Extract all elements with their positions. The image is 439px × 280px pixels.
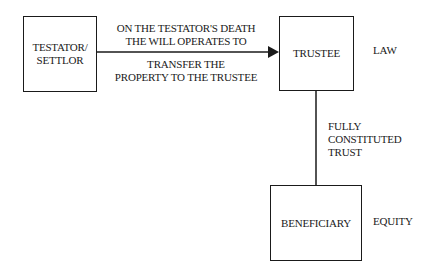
trustee-box: TRUSTEE xyxy=(279,16,354,91)
edge-text-line: PROPERTY TO THE TRUSTEE xyxy=(106,71,266,84)
testator-settlor-box: TESTATOR/ SETTLOR xyxy=(23,16,97,92)
beneficiary-box: BENEFICIARY xyxy=(270,185,362,261)
beneficiary-label: BENEFICIARY xyxy=(281,217,351,230)
edge-label-below: TRANSFER THE PROPERTY TO THE TRUSTEE xyxy=(106,58,266,84)
trustee-label: TRUSTEE xyxy=(293,47,340,60)
edge-text-line: ON THE TESTATOR'S DEATH xyxy=(106,22,266,35)
edge-text-line: TRANSFER THE xyxy=(106,58,266,71)
edge-label-above: ON THE TESTATOR'S DEATH THE WILL OPERATE… xyxy=(106,22,266,48)
fully-constituted-trust-label: FULLY CONSTITUTED TRUST xyxy=(328,120,402,159)
settlor-label: SETTLOR xyxy=(32,54,87,67)
law-label: LAW xyxy=(373,44,397,57)
equity-label: EQUITY xyxy=(373,215,413,228)
arrowhead-icon xyxy=(268,46,279,58)
edge-text-line: CONSTITUTED xyxy=(328,133,402,146)
testator-label: TESTATOR/ xyxy=(32,41,87,54)
edge-text-line: THE WILL OPERATES TO xyxy=(106,35,266,48)
edge-text-line: FULLY xyxy=(328,120,402,133)
edge-text-line: TRUST xyxy=(328,146,402,159)
